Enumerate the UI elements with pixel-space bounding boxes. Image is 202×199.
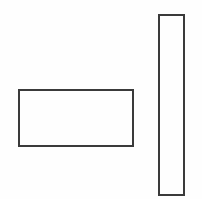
- horizontal-rectangle: [18, 89, 134, 147]
- diagram-canvas: [0, 0, 202, 199]
- vertical-rectangle: [158, 14, 185, 196]
